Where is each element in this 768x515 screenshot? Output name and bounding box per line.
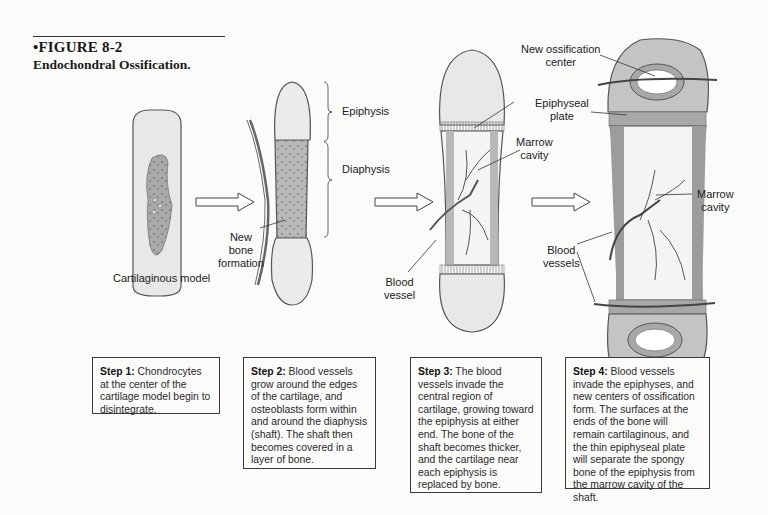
cartilaginous-model <box>133 110 181 296</box>
label-epiphysis: Epiphysis <box>342 105 389 118</box>
label-new-bone-formation: New bone formation <box>218 231 264 270</box>
label-marrow-cavity-step4: Marrow cavity <box>697 188 734 214</box>
label-cartilaginous-model: Cartilaginous model <box>113 272 210 285</box>
step-4-box: Step 4: Blood vessels invade the epiphys… <box>565 357 710 489</box>
label-new-ossification-center: New ossification center <box>521 43 600 69</box>
stage2-bone <box>247 82 332 305</box>
step-1-box: Step 1: Chondrocytes at the center of th… <box>92 357 220 414</box>
label-marrow-cavity-step3: Marrow cavity <box>516 136 553 162</box>
arrow-step2-to-3 <box>375 193 433 211</box>
step-4-heading: Step 4: <box>573 366 608 377</box>
label-blood-vessels: Blood vessels <box>543 244 580 270</box>
label-blood-vessel: Blood vessel <box>384 276 415 302</box>
label-diaphysis: Diaphysis <box>342 163 390 176</box>
stage4-bone <box>577 39 717 398</box>
step-2-box: Step 2: Blood vessels grow around the ed… <box>243 357 376 469</box>
step-2-heading: Step 2: <box>251 366 286 377</box>
step-2-text: Blood vessels grow around the edges of t… <box>251 366 367 465</box>
step-1-heading: Step 1: <box>100 366 135 377</box>
step-3-heading: Step 3: <box>418 366 453 377</box>
arrow-step3-to-4 <box>532 193 590 211</box>
step-3-text: The blood vessels invade the central reg… <box>418 366 534 490</box>
step-4-text: Blood vessels invade the epiphyses, and … <box>573 366 695 503</box>
arrow-step1-to-2 <box>196 193 254 211</box>
label-epiphyseal-plate: Epiphyseal plate <box>535 97 589 123</box>
stage3-bone <box>408 50 520 332</box>
step-3-box: Step 3: The blood vessels invade the cen… <box>410 357 542 493</box>
